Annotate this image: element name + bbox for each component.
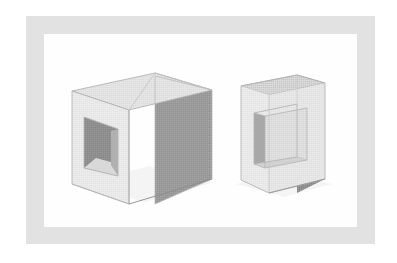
solids-illustration — [44, 34, 357, 227]
illustration-canvas — [44, 34, 357, 227]
picture-frame-mat — [26, 16, 375, 244]
screenshot-root — [0, 0, 397, 263]
cube-with-through-hole — [72, 73, 214, 204]
slab-with-square-recess — [236, 75, 332, 197]
slab-recess-left-wall — [254, 113, 265, 168]
